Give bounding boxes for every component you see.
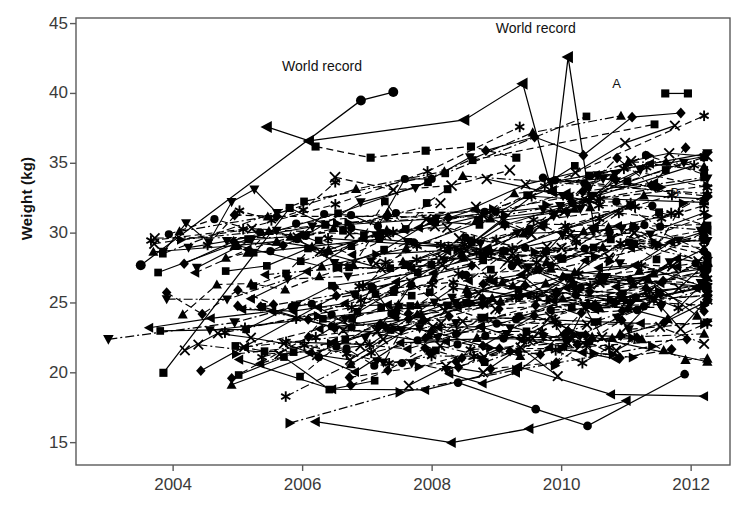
series-label-a: A xyxy=(612,76,621,91)
marker-circle xyxy=(462,271,470,279)
marker-diamond xyxy=(196,365,206,376)
marker-square xyxy=(321,221,329,229)
marker-square xyxy=(408,292,416,300)
marker-circle xyxy=(640,221,648,229)
marker-left-triangle xyxy=(144,323,153,333)
marker-square xyxy=(348,315,356,323)
marker-square xyxy=(345,264,353,272)
marker-left-triangle xyxy=(302,266,311,276)
marker-right-triangle xyxy=(629,352,638,362)
world-record-label-right: World record xyxy=(496,20,576,36)
marker-x xyxy=(676,324,686,334)
marker-square xyxy=(296,373,304,381)
marker-square xyxy=(371,377,379,385)
series-s-lefttri-2 xyxy=(310,395,631,448)
marker-right-triangle xyxy=(415,362,424,372)
marker-circle xyxy=(388,87,398,97)
marker-left-triangle xyxy=(606,389,615,399)
marker-circle xyxy=(492,319,500,327)
marker-up-triangle xyxy=(509,188,519,197)
marker-circle xyxy=(414,336,422,344)
marker-up-triangle xyxy=(227,380,237,389)
marker-square xyxy=(312,142,320,150)
marker-left-triangle xyxy=(260,121,271,133)
marker-circle xyxy=(454,378,463,387)
marker-asterisk xyxy=(515,122,524,133)
marker-diamond xyxy=(332,291,342,302)
marker-circle xyxy=(392,209,400,217)
marker-square xyxy=(487,266,495,274)
marker-circle xyxy=(165,230,173,238)
marker-square xyxy=(655,208,663,216)
marker-square xyxy=(263,262,271,270)
world-record-label-left: World record xyxy=(282,58,362,74)
marker-left-triangle xyxy=(205,313,214,323)
marker-circle xyxy=(315,353,323,361)
marker-square xyxy=(232,342,240,350)
marker-asterisk xyxy=(700,111,709,122)
series-s-square-3 xyxy=(661,89,692,97)
chart-figure: Weight (kg) 15202530354045 2004200620082… xyxy=(0,0,748,513)
marker-x xyxy=(699,339,709,349)
marker-circle xyxy=(210,215,218,223)
marker-down-triangle xyxy=(343,272,353,281)
marker-square xyxy=(154,269,162,277)
marker-circle xyxy=(531,405,540,414)
marker-square xyxy=(422,147,430,155)
marker-up-triangle xyxy=(616,111,626,120)
marker-x xyxy=(553,371,563,381)
marker-square xyxy=(703,258,711,266)
marker-left-triangle xyxy=(246,294,255,304)
marker-square xyxy=(653,256,661,264)
marker-diamond xyxy=(179,258,189,269)
marker-x xyxy=(435,341,445,351)
marker-circle xyxy=(576,284,584,292)
marker-square xyxy=(462,299,470,307)
marker-up-triangle xyxy=(458,171,468,180)
dense-cluster-right xyxy=(454,108,713,371)
marker-square xyxy=(286,204,294,212)
marker-square xyxy=(159,369,167,377)
marker-right-triangle xyxy=(703,211,713,221)
marker-left-triangle xyxy=(561,283,571,293)
marker-square xyxy=(469,156,477,164)
marker-square xyxy=(319,315,327,323)
marker-diamond xyxy=(676,108,686,119)
marker-x xyxy=(670,121,680,131)
marker-diamond xyxy=(627,112,637,123)
marker-asterisk xyxy=(281,391,290,402)
marker-left-triangle xyxy=(635,318,645,328)
marker-square xyxy=(156,327,164,335)
marker-square xyxy=(651,120,659,128)
marker-square xyxy=(414,269,422,277)
series-label-b: B xyxy=(671,185,680,200)
marker-left-triangle xyxy=(577,347,586,357)
marker-left-triangle xyxy=(621,395,631,406)
marker-up-triangle xyxy=(639,190,649,199)
marker-left-triangle xyxy=(310,416,320,427)
marker-x xyxy=(436,198,446,208)
marker-circle xyxy=(292,220,300,228)
marker-diamond xyxy=(233,285,243,296)
marker-right-triangle xyxy=(285,418,295,429)
marker-square xyxy=(367,154,375,162)
marker-square xyxy=(557,255,565,263)
marker-circle xyxy=(136,260,146,270)
marker-circle xyxy=(656,223,664,231)
marker-down-triangle xyxy=(103,335,114,345)
marker-x xyxy=(620,138,630,148)
marker-circle xyxy=(500,220,508,228)
marker-x xyxy=(505,165,515,175)
marker-square xyxy=(583,113,591,121)
marker-diamond xyxy=(383,365,393,376)
marker-circle xyxy=(481,332,489,340)
marker-x xyxy=(404,381,414,391)
marker-square xyxy=(441,170,449,178)
marker-down-triangle xyxy=(205,326,215,335)
marker-left-triangle xyxy=(629,260,639,270)
marker-circle xyxy=(546,306,554,314)
marker-square xyxy=(381,198,389,206)
marker-left-triangle xyxy=(477,379,486,389)
marker-circle xyxy=(356,95,366,105)
marker-square xyxy=(325,386,333,394)
